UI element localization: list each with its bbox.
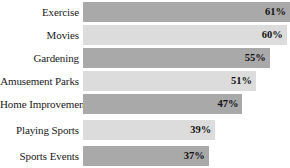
bar[interactable]: 39% bbox=[83, 120, 215, 140]
chart-row: Gardening 55% bbox=[0, 48, 290, 68]
chart-row: Home Improvement 47% bbox=[0, 94, 290, 114]
chart-row: Exercise 61% bbox=[0, 2, 290, 22]
chart-row: Playing Sports 39% bbox=[0, 120, 290, 140]
bar-value-label: 55% bbox=[245, 48, 270, 68]
category-label: Amusement Parks bbox=[0, 71, 83, 91]
bar-track: 47% bbox=[83, 94, 290, 114]
bar-value-label: 51% bbox=[231, 71, 256, 91]
category-label: Playing Sports bbox=[0, 120, 83, 140]
bar-track: 37% bbox=[83, 146, 290, 166]
horizontal-bar-chart: Exercise 61% Movies 60% Gardening 55% Am… bbox=[0, 0, 290, 168]
bar-track: 51% bbox=[83, 71, 290, 91]
category-label: Movies bbox=[0, 25, 83, 45]
bar-value-label: 47% bbox=[217, 94, 242, 114]
bar-value-label: 39% bbox=[190, 120, 215, 140]
bar[interactable]: 37% bbox=[83, 146, 209, 166]
bar-value-label: 61% bbox=[265, 2, 290, 22]
bar-value-label: 60% bbox=[262, 25, 287, 45]
bar-track: 60% bbox=[83, 25, 290, 45]
category-label: Home Improvement bbox=[0, 94, 83, 114]
bar[interactable]: 61% bbox=[83, 2, 290, 22]
category-label: Gardening bbox=[0, 48, 83, 68]
category-label: Sports Events bbox=[0, 146, 83, 166]
bar[interactable]: 47% bbox=[83, 94, 242, 114]
bar-track: 61% bbox=[83, 2, 290, 22]
bar-value-label: 37% bbox=[184, 146, 209, 166]
category-label: Exercise bbox=[0, 2, 83, 22]
chart-row: Amusement Parks 51% bbox=[0, 71, 290, 91]
chart-row: Movies 60% bbox=[0, 25, 290, 45]
bar-track: 55% bbox=[83, 48, 290, 68]
bar-track: 39% bbox=[83, 120, 290, 140]
bar[interactable]: 60% bbox=[83, 25, 287, 45]
chart-row: Sports Events 37% bbox=[0, 146, 290, 166]
bar[interactable]: 55% bbox=[83, 48, 270, 68]
bar[interactable]: 51% bbox=[83, 71, 256, 91]
